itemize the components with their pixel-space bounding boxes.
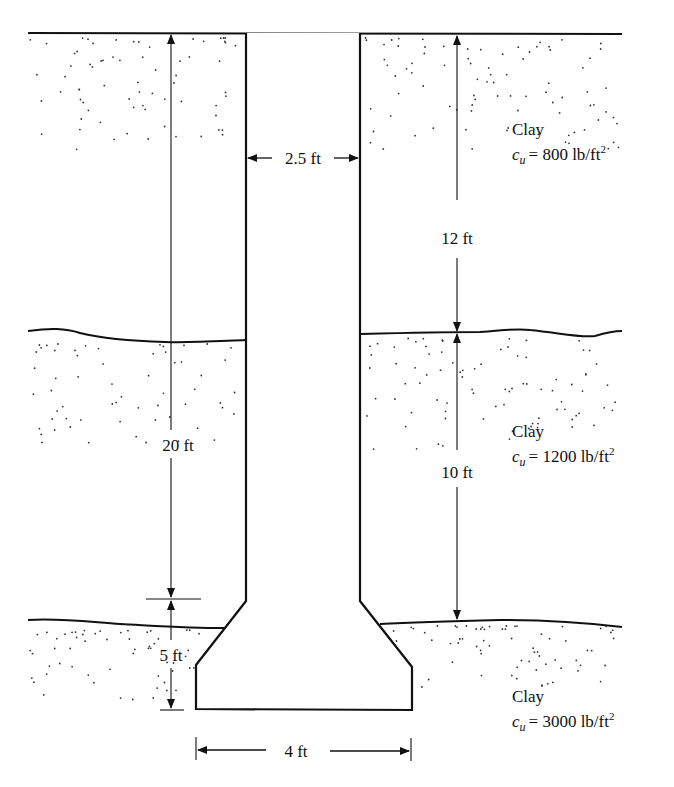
layer2-thickness-label: 10 ft [441, 463, 473, 482]
layer3-label: Clay cu= 3000 lb/ft2 [512, 687, 614, 734]
layer2-name: Clay [512, 422, 545, 441]
layer3-cu: cu= 3000 lb/ft2 [512, 710, 614, 734]
layer-boundary-1-left [28, 329, 246, 342]
layer3-name: Clay [512, 687, 545, 706]
drilled-shaft-diagram: 2.5 ft 20 ft 5 ft 4 ft 12 ft 10 ft Clay … [0, 0, 674, 787]
shaft-length-label: 20 ft [162, 436, 194, 455]
layer2-cu: cu= 1200 lb/ft2 [512, 445, 614, 469]
layer2-label: Clay cu= 1200 lb/ft2 [512, 422, 614, 469]
shaft-diameter-label: 2.5 ft [285, 149, 321, 168]
layer-boundary-1-right [361, 329, 622, 336]
layer1-label: Clay cu= 800 lb/ft2 [512, 120, 606, 167]
layer1-thickness-label: 12 ft [441, 229, 473, 248]
layer-boundary-2-right [380, 620, 622, 627]
shaft-outline [196, 33, 412, 710]
bell-height-label: 5 ft [159, 646, 182, 665]
layer1-cu: cu= 800 lb/ft2 [512, 143, 606, 167]
bell-diameter-label: 4 ft [284, 742, 307, 761]
layer-boundary-2-left [28, 619, 224, 628]
layer1-name: Clay [512, 120, 545, 139]
